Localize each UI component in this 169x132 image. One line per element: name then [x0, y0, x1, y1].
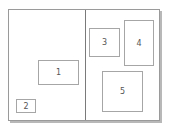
region-box-3: 3 [89, 28, 120, 57]
region-box-5: 5 [102, 71, 143, 112]
region-label-3: 3 [102, 38, 107, 47]
region-label-2: 2 [23, 102, 28, 111]
region-box-4: 4 [124, 20, 154, 66]
region-label-1: 1 [56, 68, 61, 77]
panel-divider [85, 10, 86, 120]
region-box-1: 1 [38, 60, 79, 85]
region-label-5: 5 [120, 87, 125, 96]
region-label-4: 4 [136, 39, 141, 48]
region-box-2: 2 [16, 99, 36, 113]
layout-frame: 1 2 3 4 5 [8, 9, 160, 121]
